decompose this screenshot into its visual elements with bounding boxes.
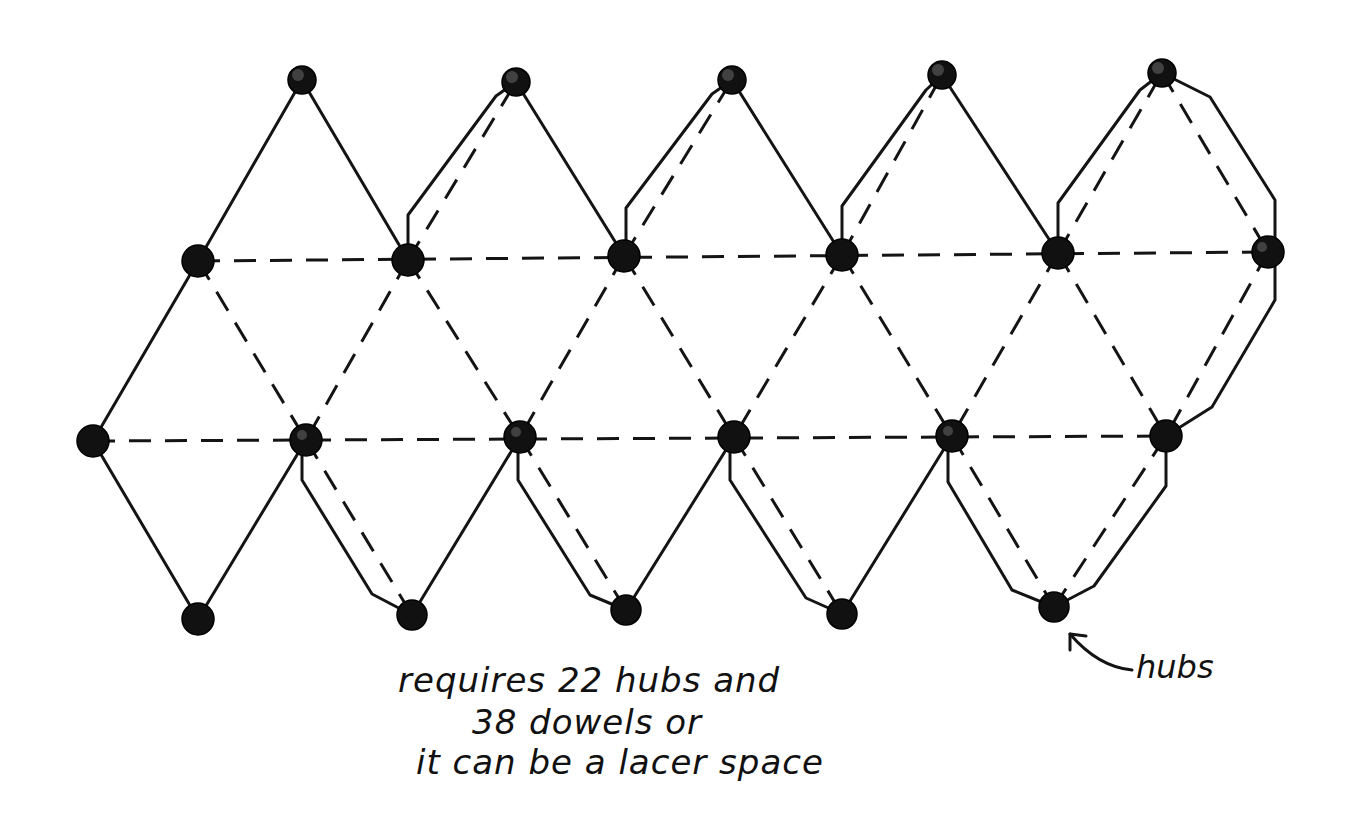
note-line-1: requires 22 hubs and: [398, 660, 780, 700]
hub-icon: [611, 595, 641, 625]
hub-icon: [718, 421, 750, 453]
middle-band-dashed-diagonals: [198, 252, 1268, 440]
hub-icon: [936, 420, 968, 452]
hub-icon: [827, 599, 857, 629]
hub-icon: [826, 239, 858, 271]
hub-icon: [1150, 420, 1182, 452]
hub-icon: [1252, 236, 1284, 268]
lower-middle-dashed-row: [93, 436, 1166, 441]
bottom-triangles: [198, 436, 1166, 619]
hub-icon: [288, 66, 316, 94]
hub-icon: [397, 600, 427, 630]
hub-icon: [504, 421, 536, 453]
hub-icon: [718, 66, 746, 94]
hub-icon: [502, 68, 530, 96]
hub-icon: [182, 245, 214, 277]
hubs: [77, 59, 1284, 635]
horizontal-dashed-edges: [93, 252, 1268, 441]
hubs-callout-arrow: [1070, 634, 1132, 670]
note-line-3: it can be a lacer space: [416, 742, 824, 782]
hub-icon: [182, 603, 214, 635]
note-line-2: 38 dowels or: [472, 702, 702, 742]
hub-icon: [290, 424, 322, 456]
hub-icon: [608, 240, 640, 272]
hub-icon: [928, 61, 956, 89]
upper-middle-dashed-row: [198, 252, 1268, 261]
hub-icon: [1039, 592, 1069, 622]
hub-icon: [1042, 237, 1074, 269]
hub-icon: [1148, 59, 1176, 87]
hub-icon: [392, 244, 424, 276]
hub-icon: [77, 425, 109, 457]
hubs-callout-label: hubs: [1136, 648, 1214, 686]
